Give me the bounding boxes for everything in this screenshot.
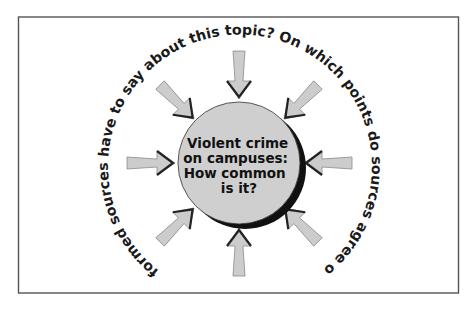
center-line-1: Violent crime <box>187 135 288 151</box>
center-line-3: How common <box>184 165 286 181</box>
diagram-canvas: Violent crime on campuses: How common is… <box>0 0 474 311</box>
center-line-4: is it? <box>221 180 257 196</box>
center-line-2: on campuses: <box>183 150 288 166</box>
